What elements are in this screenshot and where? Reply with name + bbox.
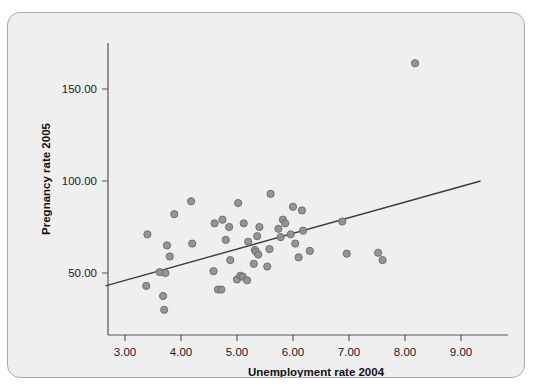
data-point <box>245 238 252 245</box>
data-point <box>162 269 169 276</box>
data-point <box>218 286 225 293</box>
data-point <box>211 220 218 227</box>
data-point <box>226 223 233 230</box>
data-point <box>264 263 271 270</box>
data-point <box>289 203 296 210</box>
scatter-series <box>143 60 419 314</box>
y-axis-title: Pregnancy rate 2005 <box>40 122 52 234</box>
data-point <box>243 277 250 284</box>
data-point <box>189 240 196 247</box>
data-point <box>277 234 284 241</box>
data-point <box>210 268 217 275</box>
data-point <box>379 257 386 264</box>
x-axis-title: Unemployment rate 2004 <box>248 366 385 378</box>
data-point <box>267 190 274 197</box>
data-point <box>275 225 282 232</box>
x-tick-label: 6.00 <box>282 346 304 358</box>
data-point <box>256 223 263 230</box>
data-point <box>250 260 257 267</box>
data-point <box>411 60 418 67</box>
data-point <box>306 247 313 254</box>
data-point <box>287 231 294 238</box>
data-point <box>235 199 242 206</box>
data-point <box>222 236 229 243</box>
data-point <box>255 251 262 258</box>
x-tick-label: 4.00 <box>170 346 192 358</box>
data-point <box>227 257 234 264</box>
data-point <box>298 207 305 214</box>
x-tick-label: 9.00 <box>450 346 472 358</box>
data-point <box>254 233 261 240</box>
y-tick-label: 150.00 <box>62 83 97 95</box>
data-point <box>343 250 350 257</box>
data-point <box>144 231 151 238</box>
x-tick-label: 7.00 <box>338 346 360 358</box>
data-point <box>219 216 226 223</box>
data-point <box>295 254 302 261</box>
x-tick-label: 8.00 <box>394 346 416 358</box>
data-point <box>163 242 170 249</box>
data-point <box>282 220 289 227</box>
data-point <box>171 211 178 218</box>
data-point <box>187 198 194 205</box>
y-tick-label: 50.00 <box>68 267 97 279</box>
data-point <box>339 218 346 225</box>
data-point <box>299 227 306 234</box>
scatter-plot: 50.00100.00150.003.004.005.006.007.008.0… <box>8 13 525 378</box>
data-point <box>159 292 166 299</box>
figure-card: 50.00100.00150.003.004.005.006.007.008.0… <box>7 12 525 378</box>
data-point <box>266 245 273 252</box>
data-point <box>292 240 299 247</box>
y-tick-label: 100.00 <box>62 175 97 187</box>
data-point <box>143 282 150 289</box>
x-tick-label: 3.00 <box>114 346 136 358</box>
data-point <box>240 220 247 227</box>
data-point <box>161 306 168 313</box>
x-tick-label: 5.00 <box>226 346 248 358</box>
data-point <box>166 253 173 260</box>
data-point <box>375 249 382 256</box>
